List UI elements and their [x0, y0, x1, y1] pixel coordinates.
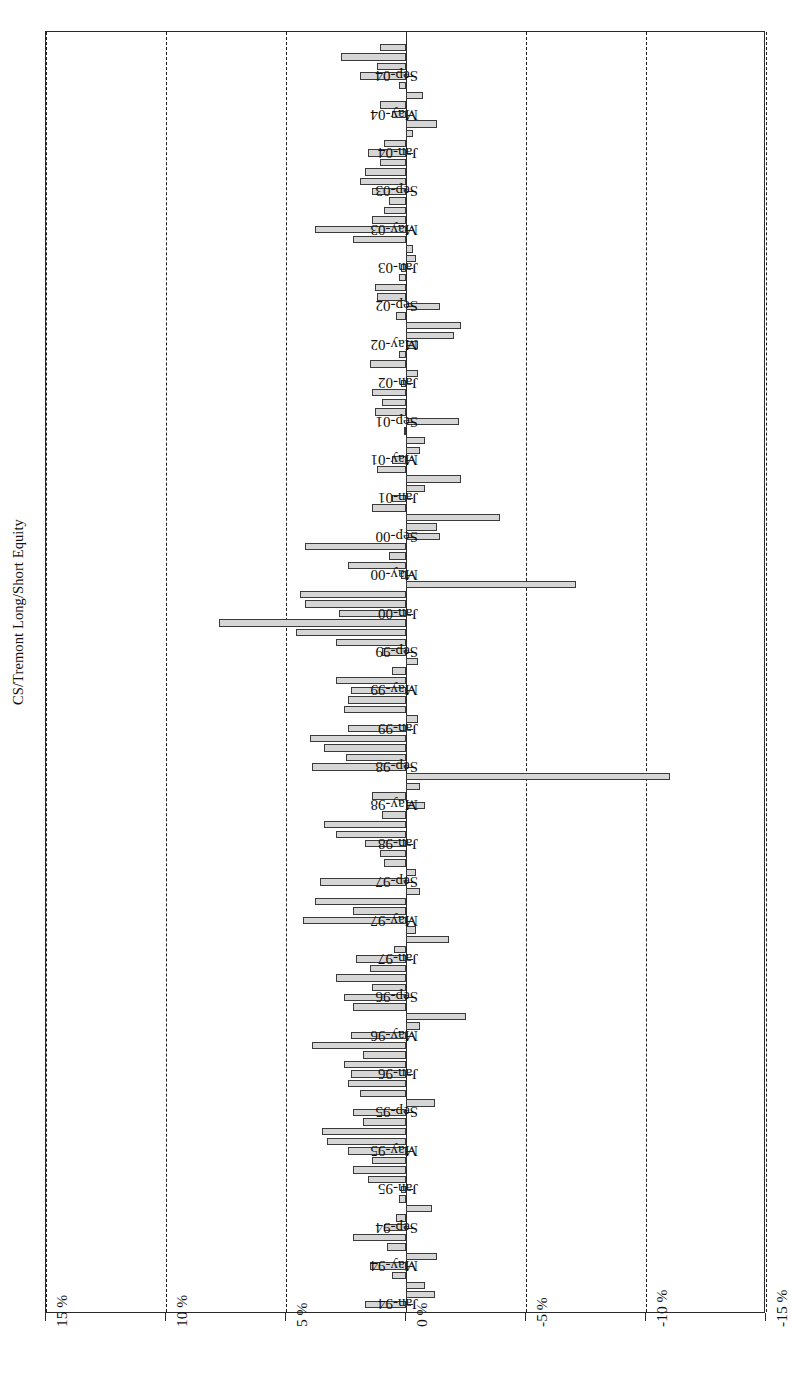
bar — [406, 773, 670, 780]
bar — [365, 168, 406, 175]
gridline-15 — [46, 32, 47, 1312]
category-label: May-01 — [371, 451, 419, 468]
category-label: Jan-00 — [378, 605, 418, 622]
bar — [300, 591, 406, 598]
gridline--10 — [646, 32, 647, 1312]
gridline-10 — [166, 32, 167, 1312]
bar — [344, 706, 406, 713]
category-label: May-97 — [371, 912, 419, 929]
category-label: Sep-94 — [376, 1219, 419, 1236]
category-label: May-04 — [371, 106, 419, 123]
bar — [315, 898, 406, 905]
bar — [392, 667, 406, 674]
value-tick — [285, 1313, 286, 1321]
category-label: Jan-04 — [378, 144, 418, 161]
category-label: Jan-01 — [378, 489, 418, 506]
value-tick — [405, 1313, 406, 1321]
category-label: May-99 — [371, 681, 419, 698]
bar — [324, 821, 406, 828]
value-tick — [525, 1313, 526, 1321]
value-axis-label: 5 % — [293, 1302, 311, 1327]
bar — [406, 1205, 432, 1212]
bar — [406, 1013, 466, 1020]
category-label: Sep-98 — [376, 758, 419, 775]
value-axis-label: 10 % — [173, 1295, 191, 1327]
bar — [324, 744, 406, 751]
bar — [406, 437, 425, 444]
bar — [370, 360, 406, 367]
bar — [406, 1282, 425, 1289]
bar — [353, 1166, 406, 1173]
category-label: Jan-97 — [378, 950, 418, 967]
bar — [406, 936, 449, 943]
gridline--5 — [526, 32, 527, 1312]
bar — [406, 581, 576, 588]
value-axis-label: 15 % — [53, 1295, 71, 1327]
category-label: May-00 — [371, 566, 419, 583]
value-axis-label: 0 % — [413, 1302, 431, 1327]
category-label: Jan-98 — [378, 835, 418, 852]
bar — [406, 322, 461, 329]
category-label: Jan-96 — [378, 1065, 418, 1082]
category-label: May-96 — [371, 1027, 419, 1044]
bar — [360, 1090, 406, 1097]
category-label: May-03 — [371, 221, 419, 238]
plot-area: Jan-94May-94Sep-94Jan-95May-95Sep-95Jan-… — [45, 31, 765, 1313]
value-tick — [765, 1313, 766, 1321]
category-label: Jan-95 — [378, 1180, 418, 1197]
category-label: Jan-94 — [378, 1295, 418, 1312]
bar — [336, 974, 406, 981]
category-label: May-95 — [371, 1142, 419, 1159]
gridline--15 — [766, 32, 767, 1312]
value-tick — [45, 1313, 46, 1321]
bar — [384, 207, 406, 214]
value-axis-label: -15 % — [773, 1290, 791, 1327]
category-label: Sep-00 — [376, 528, 419, 545]
bar — [375, 284, 406, 291]
category-label: Sep-95 — [376, 1103, 419, 1120]
bar — [322, 1128, 406, 1135]
value-axis-label: -5 % — [533, 1297, 551, 1327]
bar — [296, 629, 406, 636]
bar — [406, 514, 500, 521]
value-tick — [165, 1313, 166, 1321]
bar — [387, 1243, 406, 1250]
category-label: Sep-01 — [376, 413, 419, 430]
value-axis-label: -10 % — [653, 1290, 671, 1327]
category-label: Sep-96 — [376, 988, 419, 1005]
value-tick — [645, 1313, 646, 1321]
gridline-5 — [286, 32, 287, 1312]
category-label: Sep-97 — [376, 873, 419, 890]
bar — [406, 92, 423, 99]
bar — [384, 859, 406, 866]
bar — [406, 475, 461, 482]
bar — [380, 44, 406, 51]
bar — [406, 130, 413, 137]
bar — [406, 245, 413, 252]
category-label: May-94 — [371, 1257, 419, 1274]
bar — [406, 783, 420, 790]
category-label: May-98 — [371, 796, 419, 813]
category-label: Sep-99 — [376, 643, 419, 660]
category-label: Sep-04 — [376, 67, 419, 84]
category-label: May-02 — [371, 336, 419, 353]
bar — [341, 53, 406, 60]
category-label: Sep-02 — [376, 297, 419, 314]
category-label: Jan-99 — [378, 720, 418, 737]
category-label: Sep-03 — [376, 182, 419, 199]
chart-title: CS/Tremont Long/Short Equity — [10, 472, 34, 752]
category-label: Jan-02 — [378, 374, 418, 391]
bar — [389, 552, 406, 559]
category-label: Jan-03 — [378, 259, 418, 276]
bar — [363, 1051, 406, 1058]
bar — [382, 399, 406, 406]
